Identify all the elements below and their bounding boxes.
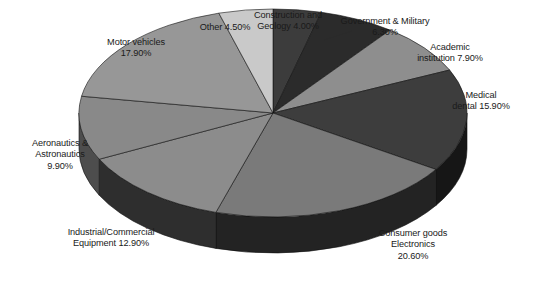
slice-label-industrial: Industrial/Commercial Equipment 12.90% bbox=[47, 227, 175, 250]
slice-label-government: Government & Military 6.30% bbox=[330, 16, 440, 39]
slice-label-consumer: Consumer goods Electronics 20.60% bbox=[358, 228, 468, 262]
slice-label-aeronautics: Aeronautics & Astronautics 9.90% bbox=[12, 138, 108, 172]
pie-chart-figure: Other 4.50% Construction and Geology 4.0… bbox=[0, 0, 533, 281]
slice-label-academic: Academic institution 7.90% bbox=[398, 42, 502, 65]
slice-label-motor: Motor vehicles 17.90% bbox=[85, 37, 187, 60]
slice-label-medical: Medical dental 15.90% bbox=[432, 90, 530, 113]
slice-label-construction: Construction and Geology 4.00% bbox=[246, 10, 330, 33]
